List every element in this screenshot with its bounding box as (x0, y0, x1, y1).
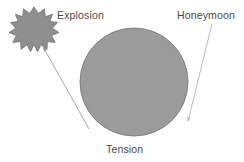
explosion-label: Explosion (57, 9, 104, 21)
explosion-starburst-icon (9, 7, 59, 52)
tension-circle (80, 28, 188, 136)
honeymoon-label: Honeymoon (177, 9, 235, 21)
diagram-graphics (0, 0, 244, 162)
diagram-canvas: Explosion Honeymoon Tension (0, 0, 244, 162)
honeymoon-arrow (188, 24, 212, 121)
tension-label: Tension (106, 143, 143, 155)
